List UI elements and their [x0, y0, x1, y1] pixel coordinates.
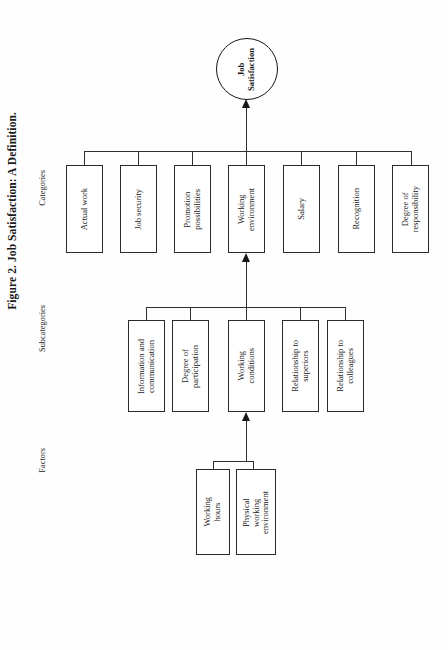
- category-label: Salary: [297, 198, 307, 220]
- connector-category-stem-5: [301, 151, 302, 165]
- category-label: Job security: [134, 189, 144, 230]
- connector-subcategory-stem-4: [300, 307, 301, 320]
- connector-subcategory-stem-1: [146, 307, 147, 320]
- category-box-degree-of-responsibility[interactable]: Degree of responsibility: [392, 165, 429, 253]
- connector-working-environment-stem: [246, 261, 247, 308]
- category-label: Working environment: [237, 188, 256, 231]
- row-label-categories: Categories: [38, 170, 47, 206]
- category-box-recognition[interactable]: Recognition: [338, 165, 375, 253]
- category-box-promotion-possibilities[interactable]: Promotion possibilities: [174, 165, 211, 253]
- subcategory-label: Working conditions: [237, 348, 256, 383]
- connector-factors-bus: [213, 461, 254, 462]
- figure-title: Figure 2. Job Satisfaction: A Definition…: [6, 112, 19, 310]
- subcategory-box-degree-of-participation[interactable]: Degree of participation: [172, 320, 209, 412]
- connector-category-stem-4: [246, 151, 247, 165]
- connector-working-conditions-stem: [246, 420, 247, 462]
- category-label: Recognition: [352, 188, 362, 230]
- node-job-satisfaction: Job Satisfaction: [216, 38, 278, 100]
- connector-categories-bus: [84, 151, 412, 152]
- category-box-salary[interactable]: Salary: [283, 165, 320, 253]
- row-label-factors: Factors: [38, 448, 47, 473]
- category-box-job-security[interactable]: Job security: [120, 165, 157, 253]
- category-label: Actual work: [80, 188, 90, 230]
- category-label: Promotion possibilities: [183, 189, 202, 230]
- factor-label: Working hours: [203, 497, 222, 527]
- connector-factor-stem-2: [253, 461, 254, 469]
- connector-category-stem-3: [192, 151, 193, 165]
- connector-category-stem-1: [84, 151, 85, 165]
- node-job-satisfaction-label: Job Satisfaction: [237, 48, 256, 91]
- connector-subcategory-stem-3: [246, 307, 247, 320]
- arrowhead-to-working-environment: [242, 253, 250, 262]
- subcategory-box-relationship-to-superiors[interactable]: Relationship to superiors: [282, 320, 319, 412]
- connector-root-stem: [246, 107, 247, 152]
- category-box-actual-work[interactable]: Actual work: [66, 165, 103, 253]
- subcategory-box-working-conditions[interactable]: Working conditions: [228, 320, 265, 412]
- category-box-working-environment[interactable]: Working environment: [228, 165, 265, 253]
- connector-category-stem-6: [356, 151, 357, 165]
- factor-box-working-hours[interactable]: Working hours: [196, 469, 230, 555]
- row-label-subcategories: Subcategories: [38, 305, 47, 352]
- factor-label: Physical working environment: [242, 491, 271, 534]
- arrowhead-to-working-conditions: [242, 412, 250, 421]
- connector-factor-stem-1: [213, 461, 214, 469]
- figure-canvas: Figure 2. Job Satisfaction: A Definition…: [0, 0, 448, 650]
- category-label: Degree of responsibility: [401, 186, 420, 232]
- subcategory-box-information-and-communication[interactable]: Information and communication: [128, 320, 165, 412]
- connector-category-stem-2: [138, 151, 139, 165]
- subcategory-label: Degree of participation: [181, 345, 200, 388]
- connector-category-stem-7: [411, 151, 412, 165]
- arrowhead-to-root: [242, 99, 250, 108]
- connector-subcategory-stem-2: [190, 307, 191, 320]
- subcategory-box-relationship-to-colleagues[interactable]: Relationship to colleagues: [327, 320, 364, 412]
- factor-box-physical-working-environment[interactable]: Physical working environment: [236, 469, 276, 555]
- subcategory-label: Relationship to superiors: [291, 340, 310, 392]
- subcategory-label: Information and communication: [137, 339, 156, 394]
- subcategory-label: Relationship to colleagues: [336, 340, 355, 392]
- connector-subcategory-stem-5: [345, 307, 346, 320]
